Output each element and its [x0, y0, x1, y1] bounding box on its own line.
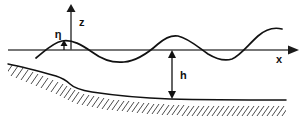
depth-arrowhead-top	[168, 50, 176, 58]
depth-label: h	[180, 69, 187, 81]
depth-dimension: h	[168, 50, 187, 99]
x-axis-label: x	[276, 53, 283, 65]
eta-dimension: η	[55, 28, 68, 50]
seabed-profile	[8, 64, 286, 100]
free-surface-wave-curve	[36, 28, 282, 62]
z-axis-label: z	[79, 16, 85, 28]
depth-arrowhead-bottom	[168, 91, 176, 99]
seabed-hatching	[6, 64, 289, 116]
x-axis-arrowhead	[288, 46, 299, 55]
eta-label: η	[55, 28, 62, 40]
wave-definition-sketch: x z η h	[0, 0, 308, 124]
z-axis-arrowhead	[67, 4, 76, 12]
figure-canvas: x z η h	[0, 0, 308, 124]
